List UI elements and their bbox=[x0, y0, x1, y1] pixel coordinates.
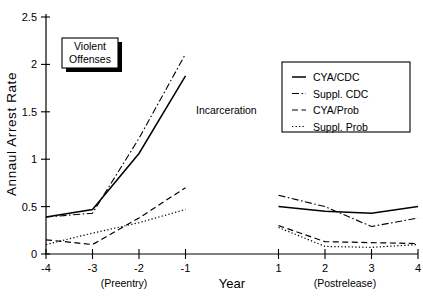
series-suppl-prob bbox=[46, 209, 418, 247]
y-tick-label: 0.5 bbox=[22, 201, 37, 213]
x-axis-ticks: -4-3-2-11234 bbox=[41, 249, 421, 274]
series-segment-postrelease bbox=[279, 227, 419, 247]
series-cya-prob bbox=[46, 188, 418, 245]
x-axis-title: Year bbox=[219, 276, 246, 291]
series-segment-preentry bbox=[46, 76, 186, 217]
badge-label-line2: Offenses bbox=[69, 53, 111, 65]
violent-offenses-badge: Violent Offenses bbox=[62, 38, 122, 72]
series-segment-postrelease bbox=[279, 207, 419, 214]
series-segment-postrelease bbox=[279, 226, 419, 244]
y-tick-label: 2 bbox=[31, 58, 37, 70]
badge-label-line1: Violent bbox=[74, 40, 106, 52]
postrelease-period-label: (Postrelease) bbox=[314, 277, 376, 289]
x-tick-label: -1 bbox=[181, 262, 191, 274]
legend-label-3: Suppl. Prob bbox=[313, 121, 368, 133]
x-tick-label: 2 bbox=[322, 262, 328, 274]
y-tick-label: 0 bbox=[31, 248, 37, 260]
x-tick-label: -4 bbox=[41, 262, 51, 274]
series-segment-preentry bbox=[46, 209, 186, 244]
chart-canvas: 00.511.522.5 -4-3-2-11234 Annaul Arrest … bbox=[0, 0, 423, 297]
legend: CYA/CDCSuppl. CDCCYA/ProbSuppl. Prob bbox=[282, 62, 410, 133]
legend-label-2: CYA/Prob bbox=[313, 104, 359, 116]
x-tick-label: 3 bbox=[368, 262, 374, 274]
preentry-period-label: (Preentry) bbox=[101, 277, 148, 289]
y-axis: 00.511.522.5 bbox=[22, 11, 50, 260]
y-tick-label: 1.5 bbox=[22, 106, 37, 118]
x-tick-label: -3 bbox=[88, 262, 98, 274]
legend-label-0: CYA/CDC bbox=[313, 71, 360, 83]
series-segment-postrelease bbox=[279, 195, 419, 226]
violent-offenses-arrest-rate-chart: 00.511.522.5 -4-3-2-11234 Annaul Arrest … bbox=[0, 0, 423, 297]
x-axis: -4-3-2-11234 bbox=[41, 249, 421, 274]
x-tick-label: -2 bbox=[134, 262, 144, 274]
x-tick-label: 1 bbox=[275, 262, 281, 274]
incarceration-annotation: Incarceration bbox=[196, 104, 257, 116]
x-tick-label: 4 bbox=[415, 262, 421, 274]
y-tick-label: 1 bbox=[31, 153, 37, 165]
y-axis-title: Annaul Arrest Rate bbox=[4, 72, 19, 196]
legend-label-1: Suppl. CDC bbox=[313, 88, 369, 100]
series-segment-preentry bbox=[46, 188, 186, 245]
series-segment-preentry bbox=[46, 54, 186, 217]
y-tick-label: 2.5 bbox=[22, 11, 37, 23]
